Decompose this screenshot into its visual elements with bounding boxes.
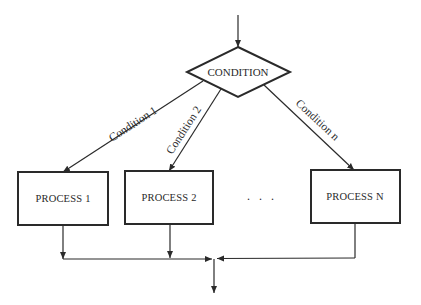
ellipsis: . . . bbox=[247, 189, 277, 203]
merge-line-right bbox=[217, 258, 355, 259]
edge-label-condition-1: Condition 1 bbox=[107, 104, 160, 144]
process-label-n: PROCESS N bbox=[326, 191, 384, 202]
process-node-1: PROCESS 1 bbox=[18, 172, 108, 225]
flowchart-canvas: CONDITION Condition 1 Condition 2 Condit… bbox=[0, 0, 421, 305]
decision-node: CONDITION bbox=[187, 47, 290, 97]
process-label-1: PROCESS 1 bbox=[35, 193, 90, 204]
process-label-2: PROCESS 2 bbox=[141, 192, 196, 203]
edge-condition-n bbox=[264, 85, 354, 170]
decision-label: CONDITION bbox=[207, 66, 268, 78]
process-node-n: PROCESS N bbox=[311, 170, 400, 223]
process-node-2: PROCESS 2 bbox=[125, 171, 213, 224]
